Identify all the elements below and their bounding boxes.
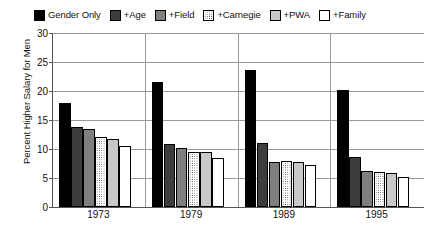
- bar-group: [331, 33, 424, 207]
- bar: [212, 158, 224, 207]
- legend-swatch-icon: [319, 10, 330, 21]
- bar: [398, 177, 410, 207]
- bar: [349, 157, 361, 207]
- bar: [305, 165, 317, 207]
- bar: [176, 148, 188, 207]
- legend-label: Gender Only: [48, 10, 101, 20]
- legend-label: +Carnegie: [217, 10, 260, 20]
- y-axis-tick-label: 15: [37, 115, 48, 126]
- legend-swatch-icon: [203, 10, 214, 21]
- bar: [59, 103, 71, 207]
- x-axis-labels: 1973197919891995: [52, 209, 423, 220]
- bar: [188, 152, 200, 207]
- legend-swatch-icon: [34, 10, 45, 21]
- legend-item-gender-only: Gender Only: [34, 10, 101, 21]
- bar-group: [239, 33, 332, 207]
- bar: [95, 137, 107, 207]
- x-axis-tick-label: 1973: [52, 209, 145, 220]
- legend-label: +Age: [124, 10, 146, 20]
- bar: [281, 161, 293, 207]
- bar: [269, 162, 281, 207]
- plot-area: 051015202530: [52, 33, 424, 208]
- y-axis-tick-label: 25: [37, 57, 48, 68]
- legend-swatch-icon: [155, 10, 166, 21]
- bar: [245, 70, 257, 207]
- x-axis-tick-label: 1979: [145, 209, 238, 220]
- y-axis-tick-label: 10: [37, 144, 48, 155]
- legend-swatch-icon: [110, 10, 121, 21]
- bar: [152, 82, 164, 207]
- legend-label: +PWA: [284, 10, 310, 20]
- y-axis-tick-label: 30: [37, 28, 48, 39]
- bar: [293, 162, 305, 207]
- bar: [374, 172, 386, 207]
- bar: [83, 129, 95, 207]
- bar: [337, 90, 349, 207]
- legend-item-field: +Field: [155, 10, 195, 21]
- bar-group: [53, 33, 146, 207]
- y-axis-tick-mark: [49, 207, 53, 208]
- y-axis-label: Percent Higher Salary for Men: [21, 32, 32, 172]
- legend-swatch-icon: [270, 10, 281, 21]
- legend-item-carnegie: +Carnegie: [203, 10, 260, 21]
- bar: [164, 144, 176, 207]
- bar: [119, 146, 131, 207]
- legend-item-age: +Age: [110, 10, 146, 21]
- x-axis-tick-label: 1989: [238, 209, 331, 220]
- chart-figure: Gender Only+Age+Field+Carnegie+PWA+Famil…: [0, 0, 429, 245]
- chart-legend: Gender Only+Age+Field+Carnegie+PWA+Famil…: [34, 6, 426, 24]
- y-axis-tick-label: 0: [42, 202, 48, 213]
- x-axis-tick-label: 1995: [330, 209, 423, 220]
- legend-label: +Field: [169, 10, 195, 20]
- bar: [71, 127, 83, 207]
- bar: [200, 152, 212, 207]
- legend-item-pwa: +PWA: [270, 10, 310, 21]
- bar: [361, 171, 373, 207]
- bar-group: [146, 33, 239, 207]
- bar-groups: [53, 33, 424, 207]
- bar: [257, 143, 269, 207]
- bar: [107, 139, 119, 207]
- y-axis-tick-label: 20: [37, 86, 48, 97]
- figure-caption: [4, 237, 424, 245]
- bar: [386, 173, 398, 207]
- legend-label: +Family: [333, 10, 366, 20]
- gridline: [53, 207, 424, 208]
- legend-item-family: +Family: [319, 10, 366, 21]
- y-axis-tick-label: 5: [42, 173, 48, 184]
